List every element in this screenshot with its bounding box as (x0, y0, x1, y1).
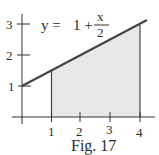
figure-caption: Fig. 17 (71, 137, 116, 155)
equation-numerator: x (97, 9, 104, 24)
x-tick-label-3: 3 (106, 122, 113, 137)
shaded-area (52, 25, 141, 117)
equation-constant: 1 + (73, 17, 93, 33)
x-tick-label-4: 4 (136, 125, 143, 140)
figure-17: 1 2 3 1 2 3 4 y = 1 + x 2 Fig. 17 (0, 0, 159, 155)
equation-lhs: y = (41, 17, 61, 33)
y-tick-label-3: 3 (6, 17, 13, 32)
y-tick-label-2: 2 (6, 48, 13, 63)
y-tick-label-1: 1 (8, 79, 15, 94)
equation-denominator: 2 (97, 25, 104, 40)
x-tick-label-1: 1 (48, 124, 55, 139)
